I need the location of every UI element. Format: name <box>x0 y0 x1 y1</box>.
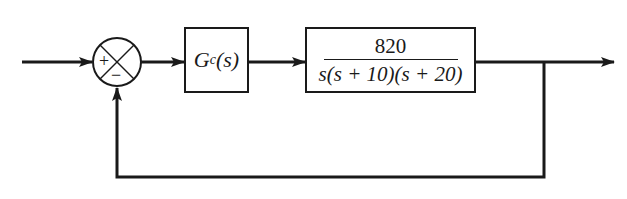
plus-sign: + <box>99 52 109 70</box>
plant-numerator: 820 <box>375 34 407 58</box>
controller-symbol: G <box>194 47 210 73</box>
plant-denominator: s(s + 10)(s + 20) <box>319 62 463 86</box>
minus-sign: − <box>111 66 121 84</box>
controller-label: Gc(s) <box>185 28 248 92</box>
plant-transfer-function: 820 s(s + 10)(s + 20) <box>306 28 475 92</box>
controller-argument: (s) <box>216 47 239 73</box>
fraction-bar <box>324 59 458 61</box>
